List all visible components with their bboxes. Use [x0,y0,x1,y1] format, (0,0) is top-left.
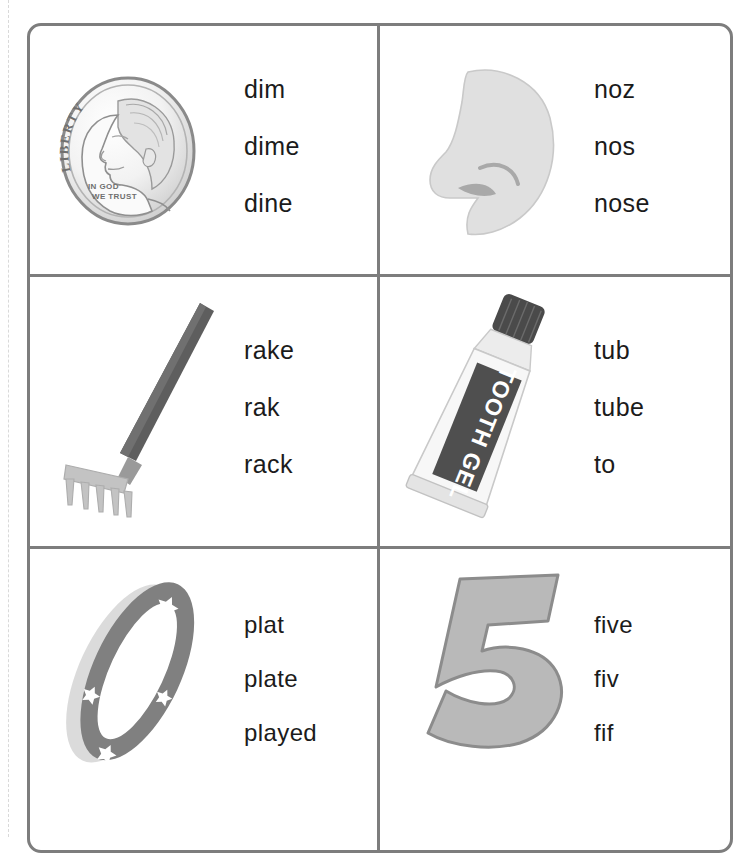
word-option[interactable]: plate [244,667,377,691]
number-five-illustration [402,567,582,752]
cell-dime: LIBERTY IN GOD WE TRUST dim dime dine [30,26,380,277]
plate-illustration [44,567,229,782]
cell-five: five fiv fif [380,549,730,850]
nose-profile-illustration [402,56,577,241]
cut-guide-line [8,0,9,837]
word-options-rake: rake rak rack [230,338,377,477]
word-options-nose: noz nos nose [580,77,730,216]
word-option[interactable]: dine [244,191,377,216]
dime-coin-illustration: LIBERTY IN GOD WE TRUST [48,71,208,231]
rake-illustration [50,289,230,519]
word-option[interactable]: dim [244,77,377,102]
word-options-dime: dim dime dine [230,77,377,216]
worksheet-grid: LIBERTY IN GOD WE TRUST dim dime dine no… [27,23,733,853]
word-option[interactable]: rak [244,395,377,420]
word-options-plate: plat plate played [230,613,377,745]
word-option[interactable]: nose [594,191,730,216]
cell-nose: noz nos nose [380,26,730,277]
nose-art-area [380,26,580,274]
word-option[interactable]: fif [594,721,730,745]
word-option[interactable]: rake [244,338,377,363]
word-option[interactable]: fiv [594,667,730,691]
cell-plate: plat plate played [30,549,380,850]
svg-text:IN GOD: IN GOD [88,182,119,191]
svg-text:WE TRUST: WE TRUST [92,192,137,201]
word-option[interactable]: tub [594,338,730,363]
word-options-tube: tub tube to [580,338,730,477]
word-option[interactable]: dime [244,134,377,159]
toothpaste-tube-illustration: TOOTH GEL [390,285,580,535]
rake-art-area [30,277,230,546]
word-options-five: five fiv fif [580,613,730,745]
cell-tube: TOOTH GEL tub tube to [380,277,730,549]
word-option[interactable]: tube [594,395,730,420]
tube-art-area: TOOTH GEL [380,277,580,546]
word-option[interactable]: to [594,452,730,477]
five-art-area [380,549,580,850]
word-option[interactable]: played [244,721,377,745]
word-option[interactable]: five [594,613,730,637]
word-option[interactable]: noz [594,77,730,102]
cell-rake: rake rak rack [30,277,380,549]
plate-art-area [30,549,230,850]
word-option[interactable]: plat [244,613,377,637]
word-option[interactable]: rack [244,452,377,477]
dime-art-area: LIBERTY IN GOD WE TRUST [30,26,230,274]
word-option[interactable]: nos [594,134,730,159]
